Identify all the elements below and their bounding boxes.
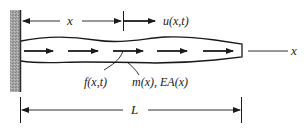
fixed-wall [10, 10, 21, 92]
bar-diagram: x u(x,t) x f(x,t) m(x), EA(x) L [0, 0, 304, 132]
x-dimension-label: x [66, 13, 73, 28]
tapered-bar [21, 37, 242, 63]
distributed-force-label: f(x,t) [84, 75, 107, 89]
length-label: L [130, 102, 138, 117]
x-axis-label: x [290, 43, 297, 58]
displacement-label: u(x,t) [163, 14, 189, 28]
x-dimension-arrow [23, 11, 124, 31]
properties-label: m(x), EA(x) [132, 75, 188, 89]
